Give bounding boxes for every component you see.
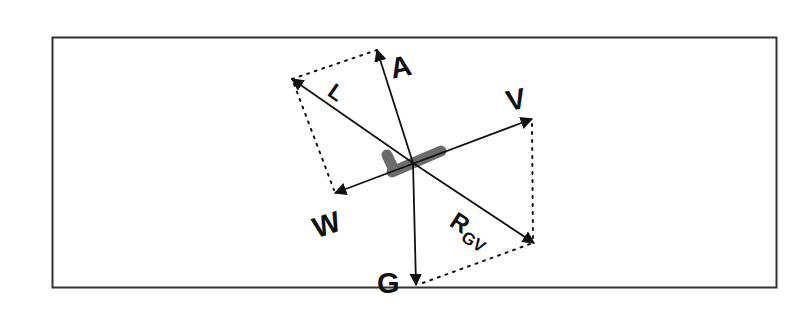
dashed-V-to-RGV xyxy=(532,124,533,238)
force-diagram: A L V W G R GV xyxy=(0,0,806,325)
label-G: G xyxy=(377,267,400,299)
